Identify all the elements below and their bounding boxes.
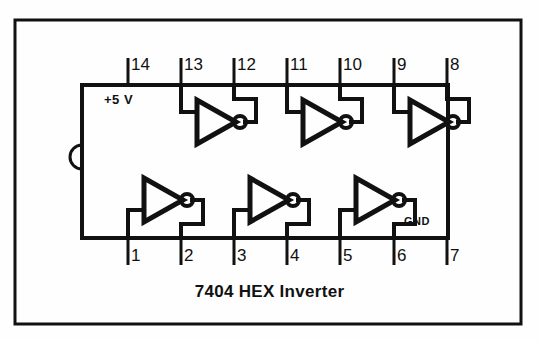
- pin-label-8: 8: [450, 56, 459, 73]
- pin-label-7: 7: [450, 247, 459, 264]
- pin-label-12: 12: [237, 56, 256, 73]
- pin-label-11: 11: [290, 56, 308, 73]
- diagram-caption: 7404 HEX Inverter: [0, 283, 539, 300]
- pin-label-13: 13: [184, 56, 203, 73]
- gnd-label: GND: [404, 216, 430, 227]
- pin-label-14: 14: [131, 56, 150, 73]
- pin-label-1: 1: [131, 247, 140, 264]
- pin-label-4: 4: [290, 247, 299, 264]
- pin-label-6: 6: [397, 247, 406, 264]
- diagram-canvas: 14 13 12 11 10 9 8 1 2 3 4 5 6 7 +5 V GN…: [0, 0, 539, 341]
- pin-label-10: 10: [343, 56, 362, 73]
- pin-label-2: 2: [184, 247, 193, 264]
- pin-label-3: 3: [237, 247, 246, 264]
- pin-label-9: 9: [397, 56, 406, 73]
- pin-label-5: 5: [343, 247, 352, 264]
- vcc-label: +5 V: [104, 93, 133, 106]
